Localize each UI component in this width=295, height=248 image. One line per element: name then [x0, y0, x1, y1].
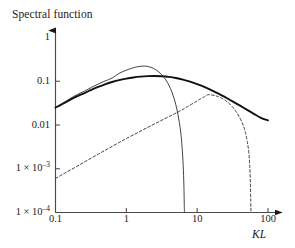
x-axis-tick-marks [126, 208, 268, 213]
data-series-shifted-spectrum-dashed [56, 95, 251, 213]
data-series-broad-spectrum-thick-solid [56, 76, 269, 120]
axes-group [56, 31, 283, 213]
data-series-peaked-spectrum-thin-solid [56, 66, 185, 212]
y-axis-tick-marks [56, 81, 61, 212]
spectral-function-figure: Spectral function KL 10.10.011 × 10–31 ×… [0, 0, 295, 248]
data-series-layer [56, 66, 269, 212]
plot-canvas [0, 0, 295, 248]
